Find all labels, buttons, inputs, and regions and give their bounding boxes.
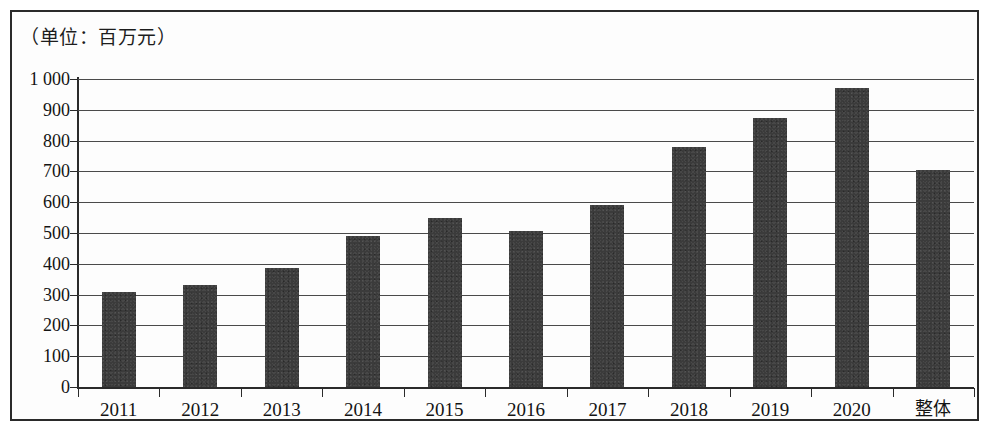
- x-axis-tick-label: 整体: [893, 400, 974, 418]
- gridline: [78, 79, 974, 80]
- gridline: [78, 387, 974, 389]
- y-axis-tick: [70, 325, 78, 326]
- y-axis-tick-labels: 01002003004005006007008009001 000: [0, 0, 70, 442]
- x-axis-tick-label: 2015: [404, 400, 485, 419]
- x-axis-tick: [730, 388, 731, 397]
- y-axis-tick: [70, 356, 78, 357]
- y-axis-tick-label: 0: [12, 378, 70, 396]
- x-axis-tick-label: 2020: [811, 400, 892, 419]
- x-axis-tick-label: 2012: [159, 400, 240, 419]
- x-axis-tick-label: 2016: [485, 400, 566, 419]
- x-axis-tick: [648, 388, 649, 397]
- x-axis-tick: [404, 388, 405, 397]
- bar: [265, 268, 299, 387]
- y-axis-tick-label: 500: [12, 224, 70, 242]
- y-axis-tick-label: 100: [12, 347, 70, 365]
- bar: [672, 147, 706, 387]
- x-axis-tick: [78, 388, 79, 397]
- bar: [428, 218, 462, 387]
- x-axis-tick-label: 2018: [648, 400, 729, 419]
- y-axis-tick-label: 1 000: [12, 70, 70, 88]
- y-axis-tick-label: 800: [12, 132, 70, 150]
- x-axis-tick: [241, 388, 242, 397]
- x-axis-tick: [159, 388, 160, 397]
- y-axis-tick-label: 600: [12, 193, 70, 211]
- plot-area: [78, 79, 974, 387]
- x-axis-tick-label: 2013: [241, 400, 322, 419]
- x-axis-tick-label: 2011: [78, 400, 159, 419]
- y-axis-tick: [70, 264, 78, 265]
- y-axis-tick: [70, 141, 78, 142]
- x-axis-tick-label: 2014: [322, 400, 403, 419]
- y-axis-tick-label: 300: [12, 286, 70, 304]
- y-axis-tick: [70, 202, 78, 203]
- y-axis-tick-label: 700: [12, 162, 70, 180]
- y-axis-tick-label: 900: [12, 101, 70, 119]
- bar: [753, 118, 787, 388]
- bar: [509, 231, 543, 387]
- x-axis-tick: [567, 388, 568, 397]
- x-axis-tick: [485, 388, 486, 397]
- x-axis-tick-label: 2019: [730, 400, 811, 419]
- bar: [835, 88, 869, 387]
- bar: [102, 292, 136, 387]
- x-axis-tick: [811, 388, 812, 397]
- y-axis-tick: [70, 79, 78, 80]
- bar: [183, 285, 217, 387]
- bar: [346, 236, 380, 387]
- y-axis-tick-label: 400: [12, 255, 70, 273]
- y-axis-tick: [70, 387, 78, 388]
- bar: [590, 205, 624, 387]
- y-axis-tick: [70, 171, 78, 172]
- y-axis-tick: [70, 233, 78, 234]
- x-axis-tick: [322, 388, 323, 397]
- y-axis-tick: [70, 295, 78, 296]
- bar: [916, 170, 950, 387]
- x-axis-tick: [974, 388, 975, 397]
- y-axis-tick-label: 200: [12, 316, 70, 334]
- y-axis-tick: [70, 110, 78, 111]
- x-axis-tick: [893, 388, 894, 397]
- x-axis-tick-label: 2017: [567, 400, 648, 419]
